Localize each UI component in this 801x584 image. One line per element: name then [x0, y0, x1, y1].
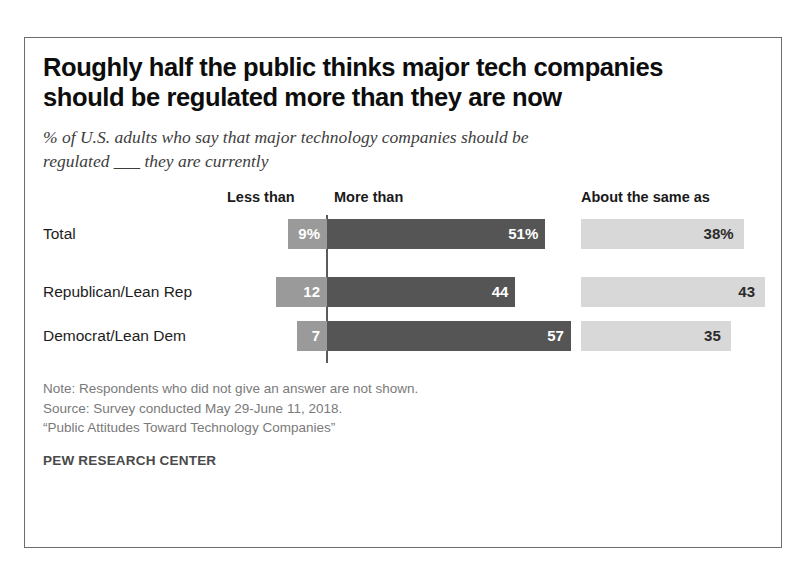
subtitle-line-2: regulated ___ they are currently	[43, 149, 663, 173]
chart-card: Roughly half the public thinks major tec…	[24, 37, 782, 548]
bar-about-same-democrat: 35	[581, 321, 731, 351]
table-row: Total 9% 51% 38%	[43, 217, 767, 251]
chart-plot-area: Less than More than About the same as To…	[43, 189, 767, 365]
row-label-republican-lean-rep: Republican/Lean Rep	[43, 275, 192, 309]
column-header-more-than: More than	[334, 189, 403, 205]
subtitle-line-1: % of U.S. adults who say that major tech…	[43, 125, 663, 149]
table-row: Democrat/Lean Dem 7 57 35	[43, 319, 767, 353]
title-line-1: Roughly half the public thinks major tec…	[43, 52, 703, 82]
row-label-total: Total	[43, 217, 76, 251]
bar-about-same-total: 38%	[581, 219, 744, 249]
bar-more-than-republican: 44	[327, 277, 515, 307]
value-about-same-democrat: 35	[704, 321, 721, 351]
bar-more-than-democrat: 57	[327, 321, 571, 351]
title-line-2: should be regulated more than they are n…	[43, 82, 703, 112]
bar-about-same-republican: 43	[581, 277, 765, 307]
bar-less-than-total: 9%	[288, 219, 327, 249]
chart-subtitle: % of U.S. adults who say that major tech…	[43, 125, 663, 173]
source-line: Source: Survey conducted May 29-June 11,…	[43, 399, 767, 419]
bar-less-than-republican: 12	[276, 277, 327, 307]
column-header-less-than: Less than	[227, 189, 295, 205]
bar-more-than-total: 51%	[327, 219, 545, 249]
bar-less-than-democrat: 7	[297, 321, 327, 351]
row-label-democrat-lean-dem: Democrat/Lean Dem	[43, 319, 186, 353]
chart-footnotes: Note: Respondents who did not give an an…	[43, 379, 767, 438]
value-more-than-democrat: 57	[547, 321, 564, 351]
table-row: Republican/Lean Rep 12 44 43	[43, 275, 767, 309]
column-header-about-the-same-as: About the same as	[581, 189, 710, 205]
value-less-than-democrat: 7	[312, 321, 320, 351]
value-less-than-republican: 12	[303, 277, 320, 307]
value-less-than-total: 9%	[298, 219, 320, 249]
value-about-same-republican: 43	[738, 277, 755, 307]
pew-research-center-attribution: PEW RESEARCH CENTER	[43, 453, 767, 468]
value-more-than-total: 51%	[508, 219, 538, 249]
note-line: Note: Respondents who did not give an an…	[43, 379, 767, 399]
report-title-line: “Public Attitudes Toward Technology Comp…	[43, 418, 767, 438]
chart-title: Roughly half the public thinks major tec…	[43, 48, 703, 112]
value-about-same-total: 38%	[704, 219, 734, 249]
value-more-than-republican: 44	[492, 277, 509, 307]
